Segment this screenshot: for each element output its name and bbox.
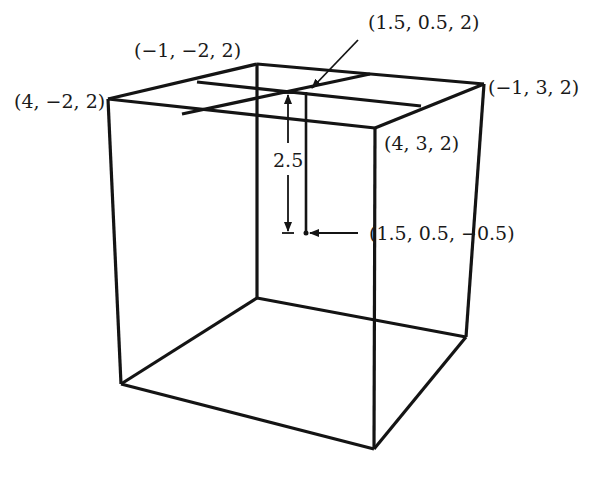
label-top-front-left: (4, −2, 2)	[14, 90, 105, 112]
label-distance: 2.5	[273, 149, 303, 171]
label-inner-point: (1.5, 0.5, −0.5)	[369, 222, 515, 244]
top-midline-y	[182, 74, 370, 114]
vertical-edges	[108, 64, 484, 449]
bottom-face	[121, 298, 466, 449]
top-face	[108, 64, 484, 128]
box-diagram: (−1, −2, 2) (4, −2, 2) (−1, 3, 2) (4, 3,…	[0, 0, 591, 477]
label-top-center: (1.5, 0.5, 2)	[368, 11, 480, 33]
inner-point-dot	[304, 231, 309, 236]
label-top-back-right: (−1, 3, 2)	[488, 76, 579, 98]
label-top-front-right: (4, 3, 2)	[384, 132, 459, 154]
label-top-back-left: (−1, −2, 2)	[134, 39, 241, 61]
